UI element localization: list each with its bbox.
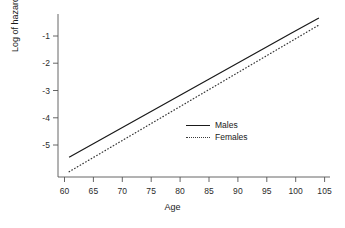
y-tick-label: -2 [32, 58, 50, 68]
x-tick-label: 75 [139, 186, 163, 196]
series-line-females [69, 25, 319, 172]
chart-legend: Males Females [186, 119, 248, 143]
x-tick-label: 80 [168, 186, 192, 196]
x-tick-label: 60 [53, 186, 77, 196]
y-tick-label: -1 [32, 31, 50, 41]
legend-label-females: Females [215, 132, 248, 142]
legend-item-females: Females [186, 131, 248, 143]
x-tick-label: 105 [313, 186, 337, 196]
x-tick-label: 95 [255, 186, 279, 196]
x-tick-label: 65 [81, 186, 105, 196]
x-tick-marks [65, 177, 325, 182]
legend-item-males: Males [186, 119, 248, 131]
x-tick-label: 90 [226, 186, 250, 196]
y-tick-marks [53, 36, 58, 145]
legend-label-males: Males [215, 120, 238, 130]
y-axis-title: Log of hazard rate [10, 24, 20, 38]
y-tick-label: -3 [32, 86, 50, 96]
y-tick-label: -4 [32, 113, 50, 123]
x-tick-label: 85 [197, 186, 221, 196]
x-tick-label: 70 [110, 186, 134, 196]
y-tick-label: -5 [32, 140, 50, 150]
legend-line-dotted-icon [186, 132, 210, 142]
y-axis-title-text: Log of hazard rate [10, 38, 20, 52]
x-tick-label: 100 [284, 186, 308, 196]
legend-line-solid-icon [186, 120, 210, 130]
x-axis-title: Age [0, 202, 345, 212]
chart-figure: -1 -2 -3 -4 -5 60 65 70 75 80 85 90 95 1… [0, 0, 345, 228]
